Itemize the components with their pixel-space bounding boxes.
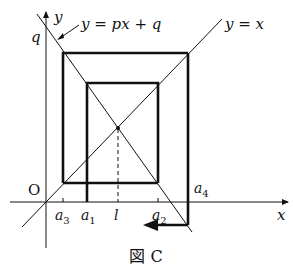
line-y-x-label: y = x (224, 15, 265, 33)
origin-label: O (28, 181, 40, 199)
pointer-arrowhead (57, 33, 64, 40)
cobweb-diagram: y q y = px + q y = x O a4 a3 a1 l a2 x 図… (0, 0, 293, 271)
tick-label-a1: a1 (81, 207, 96, 226)
q-label: q (31, 28, 41, 46)
figure-caption: 図 C (129, 247, 162, 266)
line-y-equals-px-plus-q (37, 14, 192, 232)
line-y-equals-x (22, 19, 222, 227)
fixed-point-dot (116, 126, 120, 130)
line-px-q-label: y = px + q (80, 15, 161, 33)
tick-label-l: l (114, 207, 118, 223)
x-axis-label: x (277, 206, 286, 224)
tick-label-a3: a3 (55, 207, 70, 226)
y-axis-label: y (53, 8, 63, 26)
a4-label: a4 (194, 180, 209, 199)
outer-cobweb-path (63, 53, 188, 183)
